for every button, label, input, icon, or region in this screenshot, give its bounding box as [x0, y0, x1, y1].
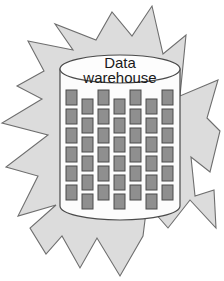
data-block	[146, 137, 157, 152]
data-block	[162, 166, 173, 181]
data-block	[82, 175, 93, 190]
data-block	[98, 128, 109, 143]
data-warehouse-diagram: Data warehouse	[0, 0, 224, 281]
data-block	[82, 99, 93, 114]
data-block	[82, 137, 93, 152]
data-block	[114, 99, 125, 114]
data-block	[114, 175, 125, 190]
data-block	[82, 194, 93, 209]
data-block	[162, 185, 173, 200]
data-block	[98, 147, 109, 162]
data-block	[130, 185, 141, 200]
data-block	[114, 118, 125, 133]
data-block	[146, 99, 157, 114]
data-block	[98, 166, 109, 181]
data-block	[162, 128, 173, 143]
data-block	[66, 90, 77, 105]
data-block	[146, 175, 157, 190]
data-block	[146, 156, 157, 171]
data-block	[130, 166, 141, 181]
data-block	[98, 185, 109, 200]
data-block	[146, 194, 157, 209]
data-block	[66, 185, 77, 200]
data-block	[66, 128, 77, 143]
data-block	[162, 147, 173, 162]
data-block	[114, 137, 125, 152]
data-block	[162, 90, 173, 105]
data-block	[66, 109, 77, 124]
data-block	[98, 109, 109, 124]
data-block	[130, 90, 141, 105]
cylinder-label-line2: warehouse	[82, 69, 156, 86]
data-block	[114, 194, 125, 209]
data-block	[66, 166, 77, 181]
data-block	[82, 118, 93, 133]
data-block	[146, 118, 157, 133]
data-block	[98, 90, 109, 105]
data-block	[130, 147, 141, 162]
data-block	[130, 128, 141, 143]
data-block	[130, 109, 141, 124]
data-block	[162, 109, 173, 124]
diagram-canvas: Data warehouse	[0, 0, 224, 281]
data-block	[66, 147, 77, 162]
data-block	[114, 156, 125, 171]
data-block	[82, 156, 93, 171]
